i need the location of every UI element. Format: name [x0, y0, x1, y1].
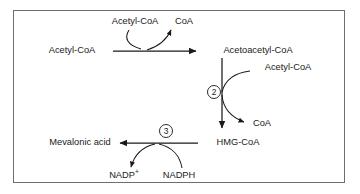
node-nadp-plus: NADP+ [109, 171, 139, 180]
node-acetoacetyl-coa: Acetoacetyl-CoA [223, 46, 292, 55]
step-number-3: 3 [159, 124, 173, 138]
arrow-layer [0, 0, 360, 194]
node-coa-out-top: CoA [175, 17, 193, 26]
curve-coa-out-top [147, 30, 171, 50]
node-hmg-coa: HMG-CoA [217, 138, 260, 147]
curve-nadp-out [131, 144, 155, 167]
node-coa-out-mid: CoA [253, 119, 271, 128]
node-acetyl-coa-cofactor-top: Acetyl-CoA [112, 17, 159, 26]
pathway-diagram: Acetyl-CoA Acetyl-CoA CoA Acetoacetyl-Co… [0, 0, 360, 194]
curve-coa-out-mid [222, 95, 244, 122]
node-nadp-plus-text: NADP [109, 170, 135, 180]
curve-nadph-in [159, 144, 182, 168]
curve-acetylcoa-in-top [127, 30, 141, 49]
node-acetyl-coa-cofactor-mid: Acetyl-CoA [265, 63, 312, 72]
node-nadph: NADPH [163, 171, 196, 180]
node-nadp-plus-charge: + [135, 168, 139, 175]
node-acetyl-coa-substrate: Acetyl-CoA [49, 46, 96, 55]
step-number-2: 2 [207, 85, 221, 99]
node-mevalonic-acid: Mevalonic acid [49, 138, 111, 147]
curve-acetylcoa-in-mid [222, 71, 250, 92]
